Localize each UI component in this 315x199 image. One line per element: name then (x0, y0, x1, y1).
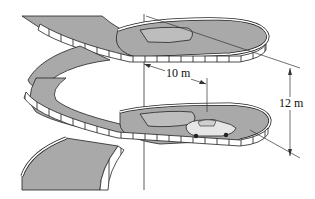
radius-label: 10 m (165, 67, 191, 80)
helical-ramp-diagram (0, 0, 315, 199)
ramp-lower-turn (22, 138, 124, 190)
pitch-dimension (288, 68, 292, 156)
pitch-label: 12 m (278, 97, 304, 110)
